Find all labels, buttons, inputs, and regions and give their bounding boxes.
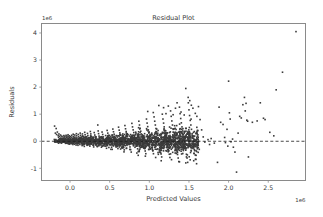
data-point (114, 136, 116, 138)
matplotlib-figure: 0.00.51.01.52.02.5 -101234 Residual Plot… (0, 0, 323, 217)
data-point (78, 136, 80, 138)
data-point (107, 139, 109, 141)
data-point (89, 143, 91, 145)
data-point (237, 132, 239, 134)
data-point (98, 141, 100, 143)
data-point (118, 126, 120, 128)
data-point (160, 153, 162, 155)
data-point (76, 135, 78, 137)
data-point (55, 128, 57, 130)
data-point (171, 148, 173, 150)
data-point (143, 145, 145, 147)
data-point (177, 144, 179, 146)
data-point (240, 117, 242, 119)
data-point (123, 149, 125, 151)
data-point (58, 133, 60, 135)
data-point (260, 102, 262, 104)
data-point (90, 136, 92, 138)
data-point (171, 120, 173, 122)
data-point (169, 126, 171, 128)
data-point (145, 155, 147, 157)
data-point (82, 135, 84, 137)
data-point (90, 133, 92, 135)
data-point (153, 137, 155, 139)
data-point (120, 137, 122, 139)
data-point (195, 155, 197, 157)
data-point (282, 71, 284, 73)
data-point (152, 150, 154, 152)
data-point (110, 144, 112, 146)
data-point (198, 149, 200, 151)
data-point (172, 114, 174, 116)
x-tick-label: 2.0 (224, 184, 234, 191)
data-point (175, 129, 177, 131)
data-point (190, 124, 192, 126)
data-point (110, 142, 112, 144)
data-point (162, 113, 164, 115)
data-point (122, 142, 124, 144)
data-point (210, 138, 212, 140)
data-point (159, 147, 161, 149)
data-point (130, 151, 132, 153)
data-point (138, 136, 140, 138)
data-point (141, 133, 143, 135)
data-point (196, 116, 198, 118)
data-point (197, 152, 199, 154)
data-point (83, 144, 85, 146)
data-point (144, 139, 146, 141)
data-point (198, 106, 200, 108)
data-point (187, 147, 189, 149)
data-point (176, 150, 178, 152)
data-point (74, 136, 76, 138)
data-point (79, 144, 81, 146)
data-point (72, 144, 74, 146)
y-axis-offset-text: 1e6 (42, 15, 53, 21)
data-point (155, 128, 157, 130)
data-point (134, 137, 136, 139)
x-tick-label: 1.0 (144, 184, 154, 191)
x-tick-label: 1.5 (184, 184, 194, 191)
data-point (183, 114, 185, 116)
data-point (153, 144, 155, 146)
data-point (189, 115, 191, 117)
data-point (245, 103, 247, 105)
data-point (151, 132, 153, 134)
data-point (163, 136, 165, 138)
data-point (167, 132, 169, 134)
data-point (170, 131, 172, 133)
data-point (87, 137, 89, 139)
data-point (118, 144, 120, 146)
data-point (168, 137, 170, 139)
data-point (252, 122, 254, 124)
data-point (91, 140, 93, 142)
data-point (157, 137, 159, 139)
data-point (192, 107, 194, 109)
data-point (295, 31, 297, 33)
data-point (136, 152, 138, 154)
data-point (71, 136, 73, 138)
data-point (132, 136, 134, 138)
data-point (201, 129, 203, 131)
data-point (81, 145, 83, 147)
data-point (163, 146, 165, 148)
y-tick-label: 3 (33, 56, 37, 63)
data-point (119, 146, 121, 148)
data-point (168, 105, 170, 107)
data-point (168, 135, 170, 137)
data-point (177, 154, 179, 156)
data-point (180, 128, 182, 130)
data-point (115, 138, 117, 140)
data-point (162, 132, 164, 134)
data-point (148, 149, 150, 151)
data-point (190, 150, 192, 152)
data-point (111, 149, 113, 151)
data-point (139, 127, 141, 129)
data-point (196, 163, 198, 165)
data-point (192, 144, 194, 146)
data-point (126, 142, 128, 144)
data-point (108, 135, 110, 137)
data-point (194, 150, 196, 152)
data-point (127, 136, 129, 138)
chart-title: Residual Plot (152, 14, 195, 22)
data-point (138, 120, 140, 122)
